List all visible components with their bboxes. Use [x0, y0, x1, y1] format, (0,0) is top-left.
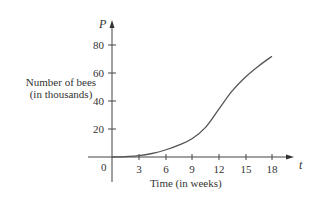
- y-tick-label: 40: [93, 95, 105, 107]
- y-tick-label: 20: [93, 123, 105, 135]
- y-axis-variable: P: [98, 17, 107, 31]
- y-tick-label: 80: [93, 39, 105, 51]
- origin-label: 0: [101, 161, 107, 173]
- x-tick-label: 3: [136, 163, 142, 175]
- y-axis-arrow-icon: [110, 20, 115, 28]
- data-curve: [112, 56, 272, 157]
- y-tick-label: 60: [93, 67, 105, 79]
- chart-canvas: t P 0 3 6 9 12 15 18 20 40 60 80: [0, 0, 313, 199]
- x-tick-label: 15: [241, 163, 253, 175]
- x-axis-arrow-icon: [286, 155, 294, 160]
- y-ticks: 20 40 60 80: [93, 39, 116, 135]
- x-axis-variable: t: [299, 158, 303, 172]
- x-tick-label: 6: [163, 163, 169, 175]
- x-tick-label: 12: [214, 163, 225, 175]
- x-tick-label: 9: [189, 163, 195, 175]
- x-tick-label: 18: [267, 163, 279, 175]
